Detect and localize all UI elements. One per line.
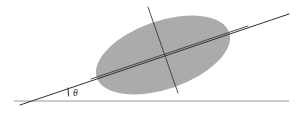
angle-tick-mark bbox=[68, 88, 69, 96]
theta-angle-label: θ bbox=[73, 88, 78, 98]
figure-root: θ bbox=[0, 0, 296, 117]
diagram-canvas: θ bbox=[0, 0, 296, 117]
